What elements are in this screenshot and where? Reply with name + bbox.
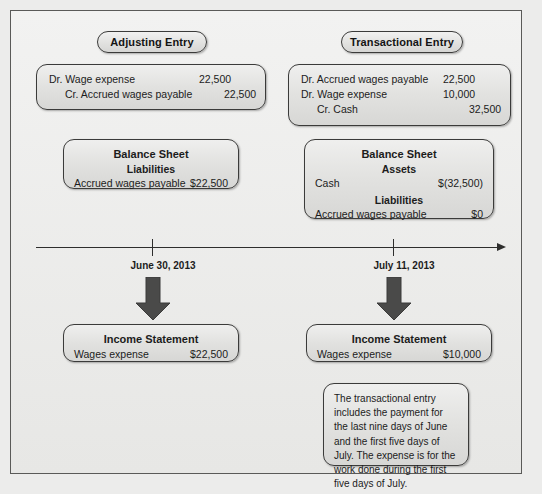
income-statement-title: Income Statement	[74, 332, 228, 347]
balance-sheet-title: Balance Sheet	[315, 147, 483, 162]
timeline-arrowhead-icon	[497, 243, 506, 251]
transactional-entry-header-label: Transactional Entry	[350, 36, 454, 48]
balance-sheet-section-heading: Assets	[315, 162, 483, 176]
transactional-balance-sheet-box: Balance Sheet Assets Cash $(32,500) Liab…	[304, 139, 494, 219]
timeline-axis	[36, 247, 498, 248]
adjusting-balance-sheet-content: Balance Sheet Liabilities Accrued wages …	[64, 140, 238, 199]
income-statement-line: Wages expense $10,000	[317, 348, 481, 363]
balance-sheet-section-heading: Liabilities	[315, 193, 483, 207]
journal-row-label: Dr. Accrued wages payable	[301, 73, 428, 87]
adjusting-balance-sheet-box: Balance Sheet Liabilities Accrued wages …	[63, 139, 239, 189]
balance-sheet-line: Accrued wages payable $0	[315, 208, 483, 223]
timeline-tick-right	[393, 239, 394, 256]
journal-row: Dr. Accrued wages payable 22,500	[301, 73, 498, 88]
balance-sheet-line-label: Cash	[315, 177, 340, 191]
balance-sheet-line-label: Accrued wages payable	[315, 208, 427, 222]
transactional-note-text: The transactional entry includes the pay…	[324, 384, 468, 494]
accounting-timeline-diagram: Adjusting Entry Dr. Wage expense 22,500 …	[0, 0, 542, 494]
journal-row-label: Cr. Accrued wages payable	[65, 88, 192, 102]
journal-row-amount: 32,500	[469, 103, 501, 117]
journal-row-amount: 22,500	[199, 73, 231, 87]
adjusting-entry-header-label: Adjusting Entry	[110, 36, 193, 48]
adjusting-journal-entry-rows: Dr. Wage expense 22,500 Cr. Accrued wage…	[37, 65, 265, 111]
balance-sheet-line-amount: $22,500	[190, 177, 228, 191]
down-arrow-icon-left	[134, 277, 172, 321]
journal-row-label: Dr. Wage expense	[49, 73, 135, 87]
journal-row: Cr. Cash 32,500	[301, 103, 498, 118]
journal-row-amount: 22,500	[443, 73, 475, 87]
balance-sheet-line-label: Accrued wages payable	[74, 177, 186, 191]
down-arrow-icon-right	[375, 277, 413, 321]
journal-row-amount: 22,500	[224, 88, 256, 102]
adjusting-entry-header-pill: Adjusting Entry	[97, 31, 207, 53]
adjusting-journal-entry-box: Dr. Wage expense 22,500 Cr. Accrued wage…	[36, 64, 266, 110]
income-statement-line-label: Wages expense	[74, 348, 149, 362]
journal-row: Dr. Wage expense 22,500	[49, 73, 253, 88]
balance-sheet-title: Balance Sheet	[74, 147, 228, 162]
diagram-frame: Adjusting Entry Dr. Wage expense 22,500 …	[10, 10, 522, 474]
balance-sheet-section-heading: Liabilities	[74, 162, 228, 176]
balance-sheet-line: Accrued wages payable $22,500	[74, 177, 228, 192]
balance-sheet-line-amount: $(32,500)	[438, 177, 483, 191]
income-statement-line: Wages expense $22,500	[74, 348, 228, 363]
journal-row-label: Dr. Wage expense	[301, 88, 387, 102]
balance-sheet-line: Cash $(32,500)	[315, 177, 483, 192]
income-statement-line-amount: $22,500	[190, 348, 228, 362]
journal-row-label: Cr. Cash	[317, 103, 358, 117]
timeline-date-label-right: July 11, 2013	[344, 260, 464, 271]
transactional-journal-entry-rows: Dr. Accrued wages payable 22,500 Dr. Wag…	[289, 65, 510, 126]
transactional-journal-entry-box: Dr. Accrued wages payable 22,500 Dr. Wag…	[288, 64, 511, 126]
adjusting-income-statement-content: Income Statement Wages expense $22,500	[64, 325, 238, 370]
timeline-tick-left	[152, 239, 153, 256]
income-statement-line-label: Wages expense	[317, 348, 392, 362]
journal-row: Dr. Wage expense 10,000	[301, 88, 498, 103]
transactional-income-statement-content: Income Statement Wages expense $10,000	[307, 325, 491, 370]
timeline-date-label-left: June 30, 2013	[103, 260, 223, 271]
transactional-balance-sheet-content: Balance Sheet Assets Cash $(32,500) Liab…	[305, 140, 493, 230]
journal-row: Cr. Accrued wages payable 22,500	[49, 88, 253, 103]
transactional-note-box: The transactional entry includes the pay…	[323, 383, 469, 466]
transactional-entry-header-pill: Transactional Entry	[341, 31, 463, 53]
adjusting-income-statement-box: Income Statement Wages expense $22,500	[63, 324, 239, 362]
balance-sheet-line-amount: $0	[471, 208, 483, 222]
transactional-income-statement-box: Income Statement Wages expense $10,000	[306, 324, 492, 362]
journal-row-amount: 10,000	[443, 88, 475, 102]
income-statement-line-amount: $10,000	[443, 348, 481, 362]
income-statement-title: Income Statement	[317, 332, 481, 347]
